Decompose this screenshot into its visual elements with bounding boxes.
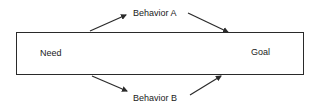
behavior-a-label: Behavior A bbox=[133, 8, 177, 18]
goal-label: Goal bbox=[251, 47, 270, 57]
behavior-b-label: Behavior B bbox=[133, 93, 177, 103]
arrow-behavior-a-to-goal-icon bbox=[188, 13, 228, 32]
arrow-behavior-b-to-goal-icon bbox=[190, 76, 221, 95]
need-goal-diagram: Need Goal Behavior A Behavior B bbox=[0, 0, 320, 106]
need-label: Need bbox=[40, 48, 62, 58]
arrow-need-to-behavior-a-icon bbox=[90, 15, 126, 31]
arrow-need-to-behavior-b-icon bbox=[92, 76, 127, 91]
